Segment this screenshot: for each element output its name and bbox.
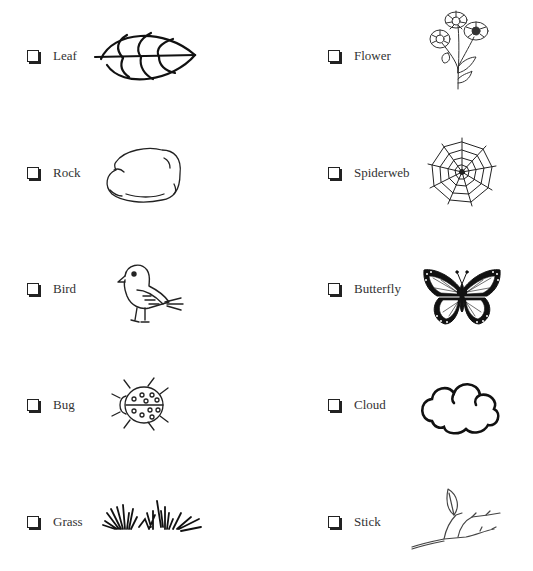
bug-label: Bug (53, 397, 75, 413)
leaf-icon (93, 27, 199, 87)
spiderweb-checkbox[interactable] (328, 167, 340, 179)
butterfly-label: Butterfly (354, 281, 401, 297)
stick-icon (410, 485, 506, 551)
bird-checkbox[interactable] (27, 283, 39, 295)
grass-checkbox[interactable] (27, 516, 39, 528)
flower-icon (428, 9, 490, 91)
checklist-item-leaf: Leaf (27, 15, 217, 95)
checklist-item-grass: Grass (27, 481, 227, 561)
leaf-label: Leaf (53, 48, 77, 64)
rock-icon (104, 144, 184, 206)
stick-label: Stick (354, 514, 381, 530)
cloud-icon (418, 379, 502, 437)
butterfly-icon (421, 266, 503, 328)
rock-label: Rock (53, 165, 80, 181)
checklist-item-bird: Bird (27, 248, 217, 328)
spiderweb-label: Spiderweb (354, 165, 410, 181)
bug-checkbox[interactable] (27, 399, 39, 411)
rock-checkbox[interactable] (27, 167, 39, 179)
cloud-checkbox[interactable] (328, 399, 340, 411)
grass-label: Grass (53, 514, 83, 530)
checklist-item-spiderweb: Spiderweb (328, 132, 518, 212)
flower-label: Flower (354, 48, 391, 64)
ladybug-icon (110, 374, 172, 436)
grass-icon (101, 499, 203, 535)
bird-label: Bird (53, 281, 76, 297)
checklist-item-bug: Bug (27, 364, 217, 444)
spiderweb-icon (426, 136, 498, 208)
butterfly-checkbox[interactable] (328, 283, 340, 295)
checklist-item-rock: Rock (27, 132, 217, 212)
checklist-item-cloud: Cloud (328, 364, 518, 444)
checklist-item-butterfly: Butterfly (328, 248, 518, 328)
stick-checkbox[interactable] (328, 516, 340, 528)
cloud-label: Cloud (354, 397, 386, 413)
checklist-item-stick: Stick (328, 481, 518, 561)
bird-icon (115, 260, 185, 330)
checklist-item-flower: Flower (328, 15, 518, 95)
flower-checkbox[interactable] (328, 50, 340, 62)
leaf-checkbox[interactable] (27, 50, 39, 62)
